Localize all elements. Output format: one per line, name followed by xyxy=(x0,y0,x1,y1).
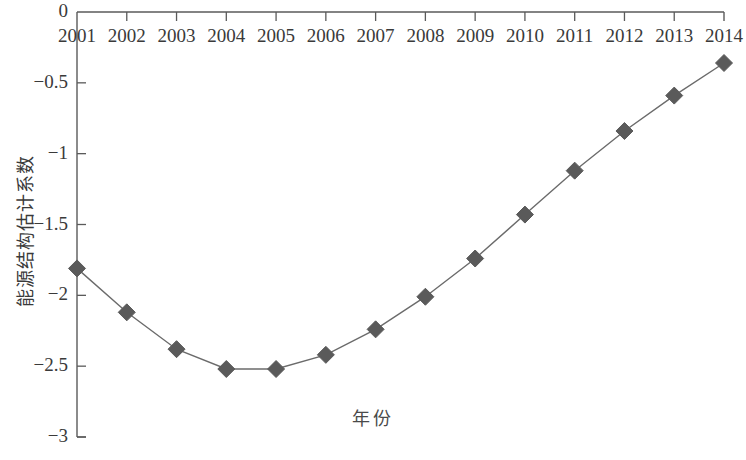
data-point-marker xyxy=(417,288,434,305)
x-axis-tick-label: 2014 xyxy=(694,26,746,45)
data-series-line xyxy=(77,63,724,369)
data-point-marker xyxy=(317,346,334,363)
y-axis-tick-label: −2.5 xyxy=(34,355,68,374)
data-point-marker xyxy=(616,123,633,140)
y-axis-title: 能源结构估计系数 xyxy=(11,141,37,321)
data-point-marker xyxy=(367,321,384,338)
data-point-marker xyxy=(666,87,683,104)
data-point-markers xyxy=(69,55,733,378)
chart-axes xyxy=(77,12,724,437)
x-axis-title: 年份 xyxy=(0,404,746,430)
data-point-marker xyxy=(168,341,185,358)
data-point-marker xyxy=(716,55,733,72)
chart-tick-marks xyxy=(77,12,674,437)
y-axis-tick-label: −1.5 xyxy=(34,214,68,233)
y-axis-tick-label: −2 xyxy=(48,284,68,303)
data-point-marker xyxy=(218,361,235,378)
y-axis-tick-label: −0.5 xyxy=(34,72,68,91)
y-axis-tick-label: 0 xyxy=(59,1,69,20)
chart-plot-area xyxy=(0,0,746,460)
y-axis-tick-label: −1 xyxy=(48,143,68,162)
chart-figure: 0−0.5−1−1.5−2−2.5−3 20012002200320042005… xyxy=(0,0,746,460)
data-point-marker xyxy=(268,361,285,378)
